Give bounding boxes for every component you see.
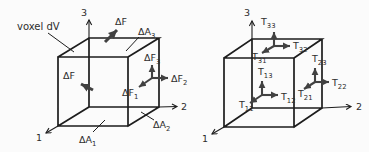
delta-a3-pointer-line — [126, 37, 139, 51]
delta-f2-label: ΔF2 — [171, 73, 187, 87]
t22-label: T22 — [331, 77, 346, 91]
delta-f-left-label: ΔF — [63, 70, 75, 81]
t12-label: T12 — [280, 91, 295, 105]
left-axis-2-arrow — [159, 107, 177, 108]
t21-label: T21 — [297, 88, 312, 102]
right-axis-1-arrow — [212, 127, 224, 134]
delta-f-top-label: ΔF — [115, 16, 127, 27]
delta-f-left-arrow — [81, 84, 93, 90]
delta-f1-arrow — [139, 78, 152, 87]
t32-label: T32 — [292, 40, 307, 54]
delta-f3-label: ΔF3 — [144, 52, 160, 66]
voxel-dv-caption: voxel dV — [17, 21, 60, 32]
delta-a1-label: ΔA1 — [79, 134, 96, 148]
left-voxel-diagram: 3 2 1 voxel dV ΔF ΔA3 ΔF3 ΔF2 ΔF1 ΔF ΔA1… — [17, 7, 187, 148]
stress-voxel-figure: 3 2 1 voxel dV ΔF ΔA3 ΔF3 ΔF2 ΔF1 ΔF ΔA1… — [0, 0, 369, 152]
delta-f1-label: ΔF1 — [122, 87, 138, 101]
t21-arrow — [304, 82, 315, 89]
left-axis-1-arrow — [46, 126, 58, 133]
figure-canvas: 3 2 1 voxel dV ΔF ΔA3 ΔF3 ΔF2 ΔF1 ΔF ΔA1… — [0, 0, 369, 152]
delta-a2-label: ΔA2 — [153, 119, 170, 133]
right-axis-1-label: 1 — [202, 133, 208, 144]
left-axis-2-label: 2 — [181, 101, 187, 112]
t31-label: T31 — [251, 51, 266, 65]
t33-label: T33 — [260, 16, 275, 30]
delta-f-top-arrow — [105, 30, 117, 42]
t23-label: T23 — [311, 53, 326, 67]
t13-label: T13 — [257, 66, 272, 80]
right-axis-2-label: 2 — [356, 101, 362, 112]
voxel-dv-pointer-line — [48, 33, 74, 52]
right-axis-2-arrow — [322, 107, 351, 109]
left-axis-1-label: 1 — [36, 132, 42, 143]
t31-arrow — [262, 46, 274, 53]
right-axis-3-label: 3 — [244, 7, 250, 18]
right-voxel-diagram: 3 2 1 T33 T32 T31 T13 T12 T11 T23 T22 T2… — [202, 7, 362, 144]
left-axis-3-label: 3 — [81, 7, 87, 18]
